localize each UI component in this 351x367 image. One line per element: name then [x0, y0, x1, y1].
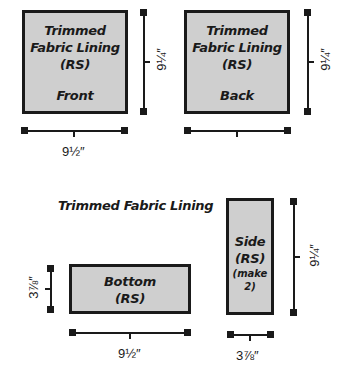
dimension-tick	[308, 61, 314, 63]
side-height-label: 9¼″	[307, 244, 322, 267]
dimension-tick	[236, 131, 238, 137]
side-label-line3: (make 2)	[229, 267, 271, 293]
side-label-line1: Side	[235, 233, 266, 250]
bottom-label-line1: Bottom	[104, 273, 156, 290]
dimension-tick	[144, 61, 150, 63]
back-height-label: 9¼″	[318, 48, 333, 71]
dimension-endcap	[47, 306, 54, 313]
dimension-endcap	[21, 127, 28, 134]
dimension-endcap	[140, 108, 147, 115]
dimension-endcap	[304, 9, 311, 16]
bottom-label-line2: (RS)	[115, 290, 145, 307]
dimension-tick	[45, 288, 51, 290]
bottom-height-label: 3⅞″	[26, 276, 41, 299]
dimension-endcap	[47, 265, 54, 272]
dimension-endcap	[290, 198, 297, 205]
dimension-endcap	[140, 9, 147, 16]
dimension-tick	[249, 335, 251, 341]
front-label-line3: (RS)	[60, 56, 90, 73]
side-width-label: 3⅞″	[236, 348, 259, 363]
dimension-tick	[294, 256, 300, 258]
dimension-endcap	[267, 331, 274, 338]
back-lining-piece: Trimmed Fabric Lining (RS) Back	[184, 10, 290, 114]
dimension-tick	[73, 131, 75, 137]
side-label-line2: (RS)	[235, 250, 265, 267]
dimension-endcap	[69, 329, 76, 336]
side-lining-piece: Side (RS) (make 2)	[226, 198, 274, 315]
dimension-endcap	[227, 331, 234, 338]
dimension-endcap	[304, 108, 311, 115]
dimension-endcap	[284, 127, 291, 134]
bottom-width-label: 9½″	[118, 346, 141, 361]
front-label-line2: Fabric Lining	[30, 39, 120, 56]
front-label-line4: Front	[57, 87, 94, 104]
back-label-line2: Fabric Lining	[192, 39, 282, 56]
dimension-endcap	[184, 329, 191, 336]
bottom-lining-piece: Bottom (RS)	[69, 264, 191, 314]
back-label-line4: Back	[220, 87, 254, 104]
dimension-endcap	[121, 127, 128, 134]
back-label-line1: Trimmed	[206, 22, 267, 39]
dimension-tick	[129, 333, 131, 339]
front-lining-piece: Trimmed Fabric Lining (RS) Front	[22, 10, 128, 114]
dimension-endcap	[184, 127, 191, 134]
dimension-endcap	[290, 309, 297, 316]
back-label-line3: (RS)	[222, 56, 252, 73]
group-title: Trimmed Fabric Lining	[58, 198, 213, 213]
front-width-label: 9½″	[62, 144, 85, 159]
front-label-line1: Trimmed	[44, 22, 105, 39]
front-height-label: 9¼″	[154, 48, 169, 71]
